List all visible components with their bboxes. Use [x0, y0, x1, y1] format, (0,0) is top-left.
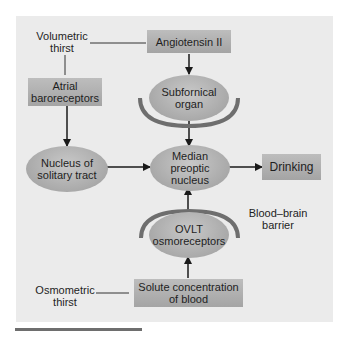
angiotensin-box: Angiotensin II — [147, 30, 231, 53]
atrial-label: Atrial baroreceptors — [31, 80, 99, 104]
subfornical-label: Subfornical organ — [161, 86, 216, 110]
nucleus-label: Nucleus of solitary tract — [37, 157, 96, 181]
blood-brain-barrier-label: Blood–brain barrier — [242, 207, 314, 231]
angiotensin-label: Angiotensin II — [156, 36, 223, 48]
drinking-label: Drinking — [269, 161, 313, 173]
median-preoptic-nucleus-oval: Median preoptic nucleus — [150, 145, 230, 191]
subfornical-organ-oval: Subfornical organ — [149, 75, 229, 121]
volumetric-thirst-label: Volumetric thirst — [32, 30, 92, 54]
ovlt-osmoreceptors-oval: OVLT osmoreceptors — [149, 212, 229, 258]
caption-rule — [15, 328, 142, 331]
solute-concentration-box: Solute concentration of blood — [134, 279, 243, 307]
drinking-box: Drinking — [262, 154, 321, 180]
osmometric-thirst-label: Osmometric thirst — [32, 284, 98, 308]
ovlt-label: OVLT osmoreceptors — [153, 223, 226, 247]
atrial-baroreceptors-box: Atrial baroreceptors — [28, 78, 102, 106]
nucleus-solitary-tract-oval: Nucleus of solitary tract — [26, 146, 108, 192]
median-label: Median preoptic nucleus — [170, 150, 209, 186]
solute-label: Solute concentration of blood — [138, 281, 238, 305]
